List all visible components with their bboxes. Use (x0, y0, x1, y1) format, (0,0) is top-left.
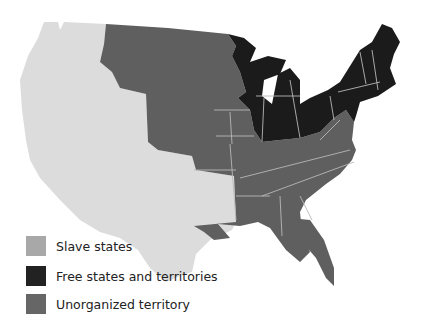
legend-label: Free states and territories (56, 269, 218, 284)
swatch-unorganized-territory (26, 294, 46, 314)
swatch-free-states (26, 266, 46, 286)
legend-item-free-states: Free states and territories (26, 266, 218, 286)
legend-item-slave-states: Slave states (26, 236, 132, 256)
legend-label: Slave states (56, 239, 132, 254)
legend-item-unorganized-territory: Unorganized territory (26, 294, 190, 314)
legend-label: Unorganized territory (56, 297, 190, 312)
swatch-slave-states (26, 236, 46, 256)
